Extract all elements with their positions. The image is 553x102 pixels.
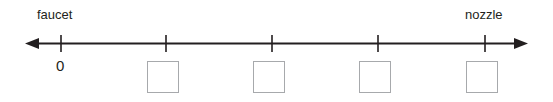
axis-arrow-left-icon bbox=[25, 38, 39, 49]
answer-box-1[interactable] bbox=[147, 61, 179, 93]
axis-arrow-right-icon bbox=[514, 38, 528, 49]
answer-box-2[interactable] bbox=[253, 61, 285, 93]
answer-box-3[interactable] bbox=[359, 61, 391, 93]
answer-box-4[interactable] bbox=[466, 61, 498, 93]
number-line-diagram: faucet nozzle 0 bbox=[0, 0, 553, 102]
origin-tick-label: 0 bbox=[56, 57, 64, 74]
